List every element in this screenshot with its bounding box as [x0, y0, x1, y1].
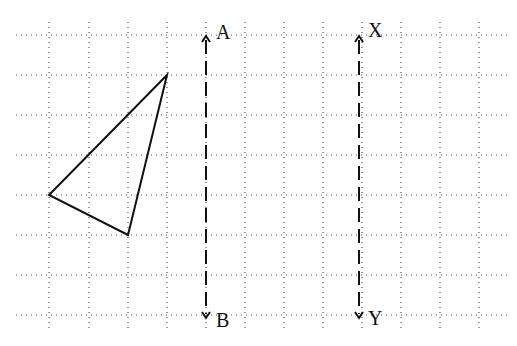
dotted-grid	[16, 22, 510, 330]
label-y: Y	[368, 308, 382, 328]
mirror-line-ab	[202, 36, 210, 318]
label-b: B	[216, 310, 229, 330]
label-a: A	[216, 22, 230, 42]
label-x: X	[368, 20, 382, 40]
mirror-lines	[202, 36, 363, 318]
diagram-canvas	[0, 0, 517, 346]
